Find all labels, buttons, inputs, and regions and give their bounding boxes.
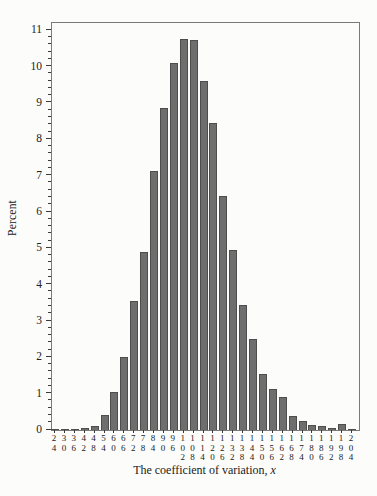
y-tick-major — [46, 29, 51, 30]
y-tick-minor — [48, 370, 51, 371]
y-tick-label: 10 — [8, 60, 42, 72]
y-tick-label: 0 — [8, 423, 42, 435]
bar-x-30 — [61, 429, 69, 430]
y-tick-major — [46, 174, 51, 175]
bar-x-174 — [299, 421, 307, 430]
bar-x-60 — [110, 392, 118, 430]
y-tick-minor — [48, 276, 51, 277]
y-axis-title: Percent — [6, 200, 18, 236]
x-axis-title: The coefficient of variation, x — [51, 463, 358, 478]
y-tick-minor — [48, 167, 51, 168]
y-tick-minor — [48, 94, 51, 95]
bar-x-96 — [170, 63, 178, 430]
bar-x-126 — [219, 196, 227, 430]
y-tick-minor — [48, 232, 51, 233]
y-tick-minor — [48, 116, 51, 117]
y-tick-minor — [48, 123, 51, 124]
y-tick-minor — [48, 269, 51, 270]
bar-x-90 — [160, 108, 168, 430]
bar-x-120 — [209, 123, 217, 430]
y-tick-minor — [48, 196, 51, 197]
y-tick-minor — [48, 407, 51, 408]
bar-x-156 — [269, 389, 277, 430]
figure-histogram: 01234567891011 2430364248546066727884909… — [0, 0, 377, 496]
x-axis-title-text: The coefficient of variation, — [133, 463, 270, 477]
bar-x-162 — [279, 397, 287, 430]
y-tick-minor — [48, 290, 51, 291]
y-tick-minor — [48, 421, 51, 422]
y-tick-minor — [48, 152, 51, 153]
y-tick-minor — [48, 327, 51, 328]
y-tick-label: 5 — [8, 241, 42, 253]
y-tick-label: 2 — [8, 350, 42, 362]
y-tick-minor — [48, 385, 51, 386]
y-tick-label: 1 — [8, 387, 42, 399]
y-tick-minor — [48, 181, 51, 182]
plot-area — [51, 22, 360, 431]
bar-x-168 — [289, 416, 297, 430]
y-tick-major — [46, 392, 51, 393]
bar-x-180 — [308, 425, 316, 431]
y-tick-minor — [48, 58, 51, 59]
y-tick-major — [46, 247, 51, 248]
bar-x-186 — [318, 426, 326, 430]
bar-x-48 — [91, 426, 99, 430]
bar-x-72 — [130, 301, 138, 430]
y-tick-major — [46, 65, 51, 66]
bar-x-108 — [190, 40, 198, 430]
y-tick-minor — [48, 349, 51, 350]
y-tick-label: 4 — [8, 278, 42, 290]
bar-x-42 — [81, 428, 89, 430]
y-tick-minor — [48, 363, 51, 364]
y-tick-major — [46, 211, 51, 212]
y-tick-label: 11 — [8, 23, 42, 35]
y-tick-minor — [48, 51, 51, 52]
y-tick-minor — [48, 261, 51, 262]
y-tick-minor — [48, 72, 51, 73]
bar-x-114 — [200, 81, 208, 430]
y-tick-major — [46, 283, 51, 284]
y-tick-label: 3 — [8, 314, 42, 326]
bar-x-132 — [229, 250, 237, 430]
y-tick-minor — [48, 203, 51, 204]
bar-x-24 — [51, 429, 59, 430]
y-tick-major — [46, 138, 51, 139]
y-tick-label: 8 — [8, 132, 42, 144]
bar-x-138 — [239, 305, 247, 430]
y-tick-major — [46, 356, 51, 357]
y-tick-minor — [48, 305, 51, 306]
y-tick-minor — [48, 298, 51, 299]
y-tick-minor — [48, 109, 51, 110]
y-tick-label: 9 — [8, 96, 42, 108]
x-axis-title-variable: x — [271, 463, 276, 477]
y-tick-minor — [48, 414, 51, 415]
y-tick-minor — [48, 131, 51, 132]
bar-x-78 — [140, 252, 148, 430]
bar-x-150 — [259, 374, 267, 430]
y-tick-minor — [48, 399, 51, 400]
bar-x-84 — [150, 171, 158, 430]
y-tick-minor — [48, 378, 51, 379]
bar-x-192 — [328, 428, 336, 430]
y-tick-minor — [48, 218, 51, 219]
y-tick-major — [46, 429, 51, 430]
bar-x-102 — [180, 39, 188, 430]
y-tick-minor — [48, 80, 51, 81]
y-tick-minor — [48, 240, 51, 241]
y-tick-minor — [48, 87, 51, 88]
y-tick-minor — [48, 43, 51, 44]
x-tick-label: 204 — [345, 434, 357, 463]
y-tick-label: 7 — [8, 169, 42, 181]
y-tick-minor — [48, 312, 51, 313]
bar-x-54 — [101, 415, 109, 430]
y-tick-minor — [48, 145, 51, 146]
bar-x-198 — [338, 424, 346, 430]
y-tick-minor — [48, 36, 51, 37]
y-tick-minor — [48, 341, 51, 342]
y-tick-major — [46, 101, 51, 102]
y-tick-minor — [48, 160, 51, 161]
bar-x-36 — [71, 429, 79, 430]
y-tick-minor — [48, 334, 51, 335]
bar-x-66 — [120, 357, 128, 430]
y-tick-minor — [48, 254, 51, 255]
